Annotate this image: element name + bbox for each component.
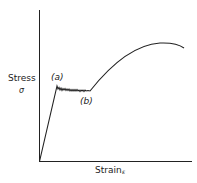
stress-strain-curve [40,43,185,162]
y-axis-label: Stress [8,73,36,83]
x-axis-label: Strain [95,165,122,175]
stress-strain-diagram: Stress σ (a) (b) Strain ε [0,0,197,183]
point-a-label: (a) [51,72,64,82]
point-b-label: (b) [80,96,93,106]
x-axis-symbol: ε [122,168,126,175]
y-axis-symbol: σ [19,86,25,95]
